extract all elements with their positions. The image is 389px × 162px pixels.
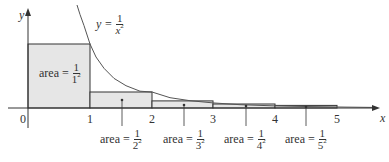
equation-den-exp: 2: [120, 22, 124, 30]
area-label-3: area = 132: [163, 128, 205, 151]
area-prefix: area =: [39, 66, 69, 81]
area-prefix: area =: [163, 132, 193, 147]
area-label-2: area = 122: [100, 128, 142, 151]
area-exp: 2: [201, 137, 205, 145]
curve-equation: y = 1 x2: [96, 13, 124, 36]
x-axis-label: x: [380, 112, 385, 124]
area-label-1: area = 112: [39, 62, 81, 85]
area-exp: 2: [77, 71, 81, 79]
area-prefix: area =: [224, 132, 254, 147]
x-tick-5: 5: [334, 113, 340, 125]
area-label-4: area = 142: [224, 128, 266, 151]
area-prefix: area =: [285, 132, 315, 147]
y-axis-label: y: [19, 9, 24, 21]
origin-label: 0: [20, 113, 26, 125]
x-axis-arrow-icon: [372, 105, 380, 111]
equation-lhs: y =: [96, 17, 112, 32]
area-prefix: area =: [100, 132, 130, 147]
area-exp: 2: [323, 137, 327, 145]
area-exp: 2: [138, 137, 142, 145]
area-label-5: area = 152: [285, 128, 327, 151]
x-tick-1: 1: [87, 113, 93, 125]
y-axis-arrow-icon: [25, 8, 31, 16]
x-tick-2: 2: [149, 113, 155, 125]
x-tick-3: 3: [210, 113, 216, 125]
x-tick-4: 4: [272, 113, 278, 125]
area-exp: 2: [262, 137, 266, 145]
